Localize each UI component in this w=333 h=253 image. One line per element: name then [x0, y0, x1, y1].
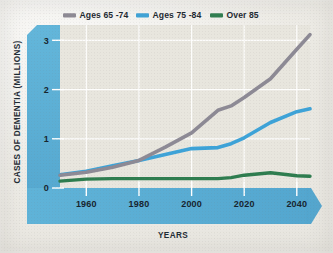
- y-tick-label: 2: [44, 85, 49, 95]
- x-tick-label: 1960: [76, 199, 97, 209]
- y-axis-title: CASES OF DEMENTIA (MILLIONS): [13, 40, 22, 183]
- x-tick-label: 2020: [234, 199, 255, 209]
- x-axis-title: YEARS: [158, 231, 188, 240]
- legend-item-ages-65-74[interactable]: Ages 65 -74: [63, 10, 128, 20]
- legend-swatch-over-85: [210, 13, 223, 17]
- axis-band-horizontal: [27, 188, 322, 224]
- plot-area: [60, 25, 310, 188]
- x-tick-label: 2040: [286, 199, 307, 209]
- axis-band-vertical: [27, 25, 60, 205]
- legend-label: Ages 65 -74: [80, 10, 129, 20]
- chart-legend: Ages 65 -74 Ages 75 -84 Over 85: [63, 10, 259, 20]
- legend-swatch-ages-75-84: [136, 13, 149, 17]
- y-tick-label: 1: [44, 134, 49, 144]
- legend-swatch-ages-65-74: [63, 13, 76, 17]
- legend-item-over-85[interactable]: Over 85: [210, 10, 259, 20]
- y-tick-label: 3: [44, 36, 49, 46]
- legend-label: Over 85: [227, 10, 259, 20]
- chart-figure: 3 2 1 0 1960 1980 2000 2020 2040 CASES O…: [0, 0, 333, 253]
- y-tick-label: 0: [44, 183, 49, 193]
- x-tick-label: 1980: [129, 199, 150, 209]
- legend-item-ages-75-84[interactable]: Ages 75 -84: [136, 10, 201, 20]
- x-tick-label: 2000: [181, 199, 202, 209]
- legend-label: Ages 75 -84: [153, 10, 202, 20]
- dementia-cases-line-chart: 3 2 1 0 1960 1980 2000 2020 2040 CASES O…: [0, 0, 333, 253]
